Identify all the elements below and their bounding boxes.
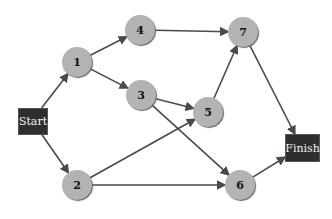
- edge-2-to-5: [90, 119, 195, 177]
- edge-5-to-7: [214, 46, 237, 99]
- finish-node: Finish: [285, 134, 320, 162]
- activity-node-6: 6: [225, 170, 255, 200]
- activity-node-1: 1: [62, 47, 92, 77]
- node-label: 5: [204, 106, 212, 119]
- node-label: 6: [236, 179, 244, 192]
- edge-1-to-4: [90, 37, 126, 55]
- activity-node-7: 7: [228, 17, 258, 47]
- node-label: 4: [136, 24, 144, 37]
- finish-label: Finish: [285, 142, 319, 155]
- edge-3-to-5: [156, 99, 194, 109]
- node-label: 7: [239, 26, 247, 39]
- network-diagram: Start Finish 1 2 3 4 5 6 7: [0, 0, 332, 219]
- edge-6-to-finish: [253, 157, 285, 177]
- activity-node-2: 2: [62, 170, 92, 200]
- node-label: 2: [73, 179, 81, 192]
- activity-node-5: 5: [193, 97, 223, 127]
- edges-layer: [0, 0, 332, 219]
- edge-start-to-1: [42, 74, 68, 108]
- activity-node-4: 4: [125, 15, 155, 45]
- edge-4-to-7: [155, 30, 228, 31]
- start-label: Start: [19, 115, 47, 128]
- edge-start-to-2: [41, 133, 69, 173]
- activity-node-3: 3: [126, 80, 156, 110]
- start-node: Start: [18, 108, 48, 135]
- node-label: 1: [73, 56, 81, 69]
- edge-7-to-finish: [250, 45, 295, 134]
- node-label: 3: [137, 89, 145, 102]
- edge-1-to-3: [90, 69, 127, 88]
